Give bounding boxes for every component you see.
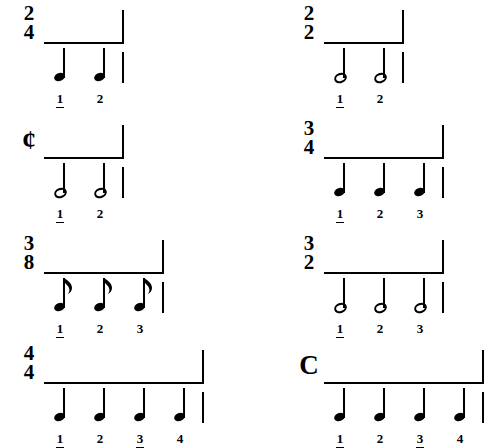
notehead-quarter [333,186,346,197]
beat-number: 3 [409,322,431,337]
beat-number: 2 [369,322,391,337]
beat-number-label: 2 [96,432,105,447]
half-note [54,163,76,203]
barline-upper [402,10,404,44]
staff-line [44,157,122,159]
staff-line [44,42,122,44]
notehead-eighth [53,301,66,312]
time-signature-glyph: ¢ [14,125,44,155]
barline-lower [402,52,404,83]
beat-number-accented: 1 [49,207,71,223]
beat-number-label: 3 [416,207,425,222]
time-signature-three-two: 32 [294,234,324,272]
beat-number-accented: 1 [49,322,71,338]
beat-number-label: 2 [96,322,105,337]
notehead-quarter [93,411,106,422]
notehead-quarter [453,411,466,422]
time-signature-symbol-common-time: C [294,350,324,380]
time-signature-denominator: 2 [294,23,324,42]
staff-line [324,272,442,274]
barline-upper [442,240,444,274]
notehead-half [333,301,349,315]
beat-number: 2 [369,207,391,222]
notehead-quarter [373,186,386,197]
time-signature-three-four: 34 [294,119,324,157]
time-signature-denominator: 2 [294,253,324,272]
beat-number-label: 4 [176,432,185,447]
half-note [334,48,356,88]
beat-number-accented: 3 [129,432,151,448]
beat-number-label: 2 [376,92,385,107]
time-signature-denominator: 4 [14,23,44,42]
barline-upper [442,125,444,159]
beat-number-label: 3 [416,322,425,337]
notehead-quarter [53,411,66,422]
quarter-note [414,163,436,203]
beat-number-accented: 1 [49,432,71,448]
notehead-quarter [413,186,426,197]
beat-number: 2 [89,92,111,107]
eighth-note [54,278,76,318]
quarter-note [54,48,76,88]
barline-lower [442,282,444,313]
staff-line [44,382,202,384]
beat-number: 4 [449,432,471,447]
quarter-note [374,163,396,203]
beat-number: 3 [409,207,431,222]
notehead-quarter [373,411,386,422]
eighth-flag-icon [144,278,154,294]
beat-number: 3 [129,322,151,337]
half-note [94,163,116,203]
notehead-half [373,301,389,315]
half-note [374,48,396,88]
beat-number-label: 1 [336,207,345,223]
notehead-quarter [173,411,186,422]
beat-number-label: 1 [56,92,65,108]
beat-number-label: 2 [376,432,385,447]
notehead-quarter [53,71,66,82]
beat-number-label: 2 [96,207,105,222]
beat-number-accented: 3 [409,432,431,448]
time-signature-denominator: 8 [14,253,44,272]
quarter-note [414,388,436,428]
eighth-flag-icon [64,278,74,294]
eighth-flag-icon [104,278,114,294]
beat-number: 2 [89,432,111,447]
quarter-note [54,388,76,428]
staff-line [44,272,162,274]
beat-number: 2 [89,207,111,222]
time-signature-denominator: 4 [294,138,324,157]
quarter-note [94,48,116,88]
barline-lower [122,52,124,83]
barline-lower [122,167,124,198]
time-signature-two-two: 22 [294,4,324,42]
notehead-quarter [333,411,346,422]
time-signature-four-four: 44 [14,344,44,382]
beat-number-label: 4 [456,432,465,447]
quarter-note [94,388,116,428]
quarter-note [454,388,476,428]
barline-lower [442,167,444,198]
beat-number-accented: 1 [329,322,351,338]
quarter-note [334,388,356,428]
time-signature-symbol-cut-time: ¢ [14,125,44,155]
half-note [414,278,436,318]
beat-number-accented: 1 [329,207,351,223]
beat-number-label: 1 [336,322,345,338]
barline-lower [202,392,204,423]
time-signature-three-eight: 38 [14,234,44,272]
staff-line [324,382,482,384]
notehead-quarter [413,411,426,422]
time-signature-two-four: 24 [14,4,44,42]
beat-number-label: 1 [336,92,345,108]
beat-number: 4 [169,432,191,447]
time-signature-glyph: C [294,350,324,380]
time-signature-denominator: 4 [14,363,44,382]
notehead-half [413,301,429,315]
notehead-half [373,71,389,85]
beat-number-label: 3 [416,432,425,448]
beat-number: 2 [89,322,111,337]
staff-line [324,157,442,159]
barline-lower [162,282,164,313]
